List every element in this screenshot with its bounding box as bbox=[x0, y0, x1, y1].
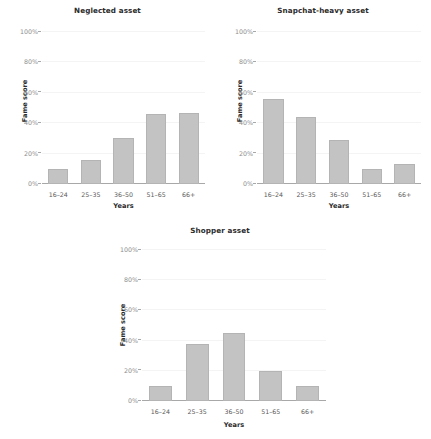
y-tick-label: 20% bbox=[124, 366, 138, 373]
y-tick-label: 60% bbox=[124, 306, 138, 313]
bar-slot bbox=[179, 250, 216, 401]
bar bbox=[113, 138, 133, 184]
plot-area: 0%20%40%60%80%100% bbox=[42, 32, 205, 184]
y-tick-label: 100% bbox=[20, 28, 38, 35]
chart-panel-neglected-asset: Neglected asset Fame score 0%20%40%60%80… bbox=[0, 0, 215, 220]
bar-slot bbox=[289, 250, 326, 401]
y-tick-mark bbox=[138, 339, 141, 340]
x-tick-label: 16–24 bbox=[142, 408, 179, 415]
x-tick-label: 66+ bbox=[289, 408, 326, 415]
x-tick-label: 16–24 bbox=[257, 191, 290, 198]
x-tick-label: 36–50 bbox=[107, 191, 140, 198]
bar bbox=[186, 344, 209, 401]
y-tick-label: 100% bbox=[120, 246, 138, 253]
bar-slot bbox=[257, 32, 290, 184]
bar-slot bbox=[252, 250, 289, 401]
y-tick-label: 0% bbox=[128, 397, 138, 404]
chart-panel-snapchat-heavy-asset: Snapchat-heavy asset Fame score 0%20%40%… bbox=[215, 0, 431, 220]
y-tick-mark bbox=[138, 309, 141, 310]
y-tick-label: 0% bbox=[243, 180, 253, 187]
bar-slot bbox=[42, 32, 75, 184]
bar bbox=[48, 169, 68, 184]
chart-panel-shopper-asset: Shopper asset Fame score 0%20%40%60%80%1… bbox=[80, 220, 360, 439]
y-tick-label: 80% bbox=[239, 58, 253, 65]
bar bbox=[146, 114, 166, 184]
y-tick-mark bbox=[253, 152, 256, 153]
bar-slot bbox=[355, 32, 388, 184]
x-tick-label: 66+ bbox=[388, 191, 421, 198]
x-tick-label: 51–65 bbox=[355, 191, 388, 198]
bar bbox=[296, 386, 319, 401]
y-tick-mark bbox=[38, 122, 41, 123]
y-tick-mark bbox=[138, 249, 141, 250]
bar bbox=[394, 164, 414, 184]
bar bbox=[296, 117, 316, 184]
y-tick-mark bbox=[138, 369, 141, 370]
y-tick-mark bbox=[138, 279, 141, 280]
bar-series bbox=[42, 32, 205, 184]
bar-slot bbox=[75, 32, 108, 184]
y-tick-mark bbox=[38, 61, 41, 62]
x-axis-title: Years bbox=[257, 202, 421, 210]
y-tick-mark bbox=[38, 152, 41, 153]
y-tick-mark bbox=[38, 31, 41, 32]
y-tick-mark bbox=[253, 91, 256, 92]
chart-title: Neglected asset bbox=[0, 6, 215, 15]
x-tick-label: 16–24 bbox=[42, 191, 75, 198]
x-tick-labels: 16–2425–3536–5051–6566+ bbox=[42, 191, 205, 198]
bar bbox=[179, 113, 199, 184]
bar-slot bbox=[107, 32, 140, 184]
y-tick-mark bbox=[253, 183, 256, 184]
bar-slot bbox=[216, 250, 253, 401]
chart-title: Shopper asset bbox=[80, 226, 360, 235]
y-axis-title: Fame score bbox=[21, 80, 29, 122]
x-tick-labels: 16–2425–3536–5051–6566+ bbox=[142, 408, 326, 415]
chart-title: Snapchat-heavy asset bbox=[215, 6, 431, 15]
x-tick-label: 25–35 bbox=[75, 191, 108, 198]
y-tick-label: 40% bbox=[124, 336, 138, 343]
plot-area: 0%20%40%60%80%100% bbox=[257, 32, 421, 184]
y-tick-label: 40% bbox=[24, 119, 38, 126]
bar-slot bbox=[388, 32, 421, 184]
y-tick-mark bbox=[253, 122, 256, 123]
y-tick-label: 60% bbox=[239, 88, 253, 95]
y-tick-label: 20% bbox=[239, 149, 253, 156]
bar-slot bbox=[290, 32, 323, 184]
bar-slot bbox=[142, 250, 179, 401]
y-tick-mark bbox=[38, 91, 41, 92]
plot-area: 0%20%40%60%80%100% bbox=[142, 250, 326, 401]
bar bbox=[223, 333, 246, 401]
bar bbox=[81, 160, 101, 184]
bar bbox=[263, 99, 283, 184]
y-tick-mark bbox=[138, 400, 141, 401]
y-tick-label: 80% bbox=[24, 58, 38, 65]
y-tick-label: 40% bbox=[239, 119, 253, 126]
x-tick-label: 25–35 bbox=[179, 408, 216, 415]
x-tick-label: 66+ bbox=[172, 191, 205, 198]
y-tick-mark bbox=[38, 183, 41, 184]
bar-slot bbox=[172, 32, 205, 184]
x-tick-labels: 16–2425–3536–5051–6566+ bbox=[257, 191, 421, 198]
y-tick-label: 80% bbox=[124, 276, 138, 283]
bar bbox=[329, 140, 349, 184]
y-axis-title: Fame score bbox=[236, 80, 244, 122]
x-axis-title: Years bbox=[142, 421, 326, 429]
bar-series bbox=[142, 250, 326, 401]
y-tick-mark bbox=[253, 61, 256, 62]
x-tick-label: 51–65 bbox=[252, 408, 289, 415]
x-axis-title: Years bbox=[42, 202, 205, 210]
x-tick-label: 36–50 bbox=[323, 191, 356, 198]
y-tick-mark bbox=[253, 31, 256, 32]
bar bbox=[259, 371, 282, 401]
y-tick-label: 20% bbox=[24, 149, 38, 156]
bar-series bbox=[257, 32, 421, 184]
bar-slot bbox=[323, 32, 356, 184]
bar-slot bbox=[140, 32, 173, 184]
y-tick-label: 60% bbox=[24, 88, 38, 95]
bar bbox=[362, 169, 382, 184]
bar bbox=[149, 386, 172, 401]
x-tick-label: 51–65 bbox=[140, 191, 173, 198]
y-tick-label: 100% bbox=[235, 28, 253, 35]
x-tick-label: 25–35 bbox=[290, 191, 323, 198]
x-tick-label: 36–50 bbox=[216, 408, 253, 415]
